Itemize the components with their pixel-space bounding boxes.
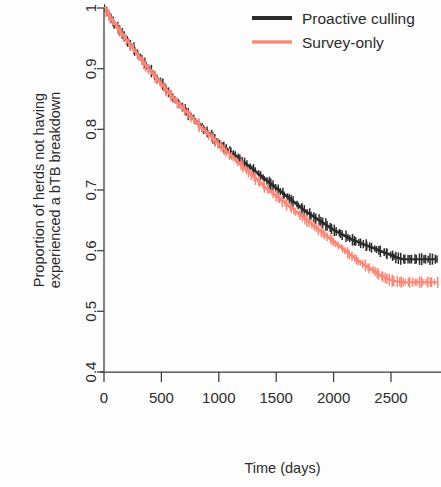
x-tick-label: 500 xyxy=(149,389,174,406)
y-axis-title-line-1: Proportion of herds not having xyxy=(31,93,47,287)
legend-label-survey-only: Survey-only xyxy=(302,34,384,51)
x-axis-title: Time (days) xyxy=(245,460,321,476)
x-tick-label: 0 xyxy=(100,389,108,406)
y-tick-label: 0.8 xyxy=(82,119,99,140)
x-tick-label: 1500 xyxy=(260,389,293,406)
x-tick-label: 1000 xyxy=(202,389,235,406)
axis-labels-group: Time (days)Proportion of herds not havin… xyxy=(31,92,321,476)
series-line-survey-only xyxy=(104,8,437,282)
x-tick-label: 2500 xyxy=(374,389,407,406)
censor-marks-survey-only xyxy=(106,6,438,288)
y-tick-label: 1 xyxy=(82,4,99,12)
y-tick-label: 0.7 xyxy=(82,180,99,201)
y-tick-label: 0.9 xyxy=(82,58,99,79)
y-tick-label: 0.5 xyxy=(82,301,99,322)
legend-label-proactive-culling: Proactive culling xyxy=(302,10,415,27)
survival-curve-chart: 0.40.50.60.70.80.9105001000150020002500 … xyxy=(0,0,441,487)
chart-legend: Proactive cullingSurvey-only xyxy=(252,10,415,51)
plot-area xyxy=(104,4,438,287)
y-axis-title-line-2: experienced a bTB breakdown xyxy=(47,92,63,289)
series-line-proactive-culling xyxy=(104,8,437,259)
y-tick-label: 0.4 xyxy=(82,362,99,383)
chart-figure: 0.40.50.60.70.80.9105001000150020002500 … xyxy=(0,0,441,487)
y-tick-label: 0.6 xyxy=(82,240,99,261)
axes-group: 0.40.50.60.70.80.9105001000150020002500 xyxy=(82,4,441,406)
x-tick-label: 2000 xyxy=(317,389,350,406)
